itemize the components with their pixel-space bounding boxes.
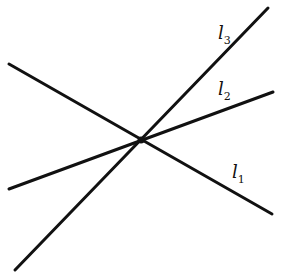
intersection-point bbox=[138, 137, 145, 144]
lines-figure bbox=[0, 0, 281, 279]
label-l1: l1 bbox=[232, 163, 245, 185]
label-l3: l3 bbox=[218, 24, 231, 46]
label-l2: l2 bbox=[218, 80, 231, 102]
diagram-canvas: l3 l2 l1 bbox=[0, 0, 281, 279]
